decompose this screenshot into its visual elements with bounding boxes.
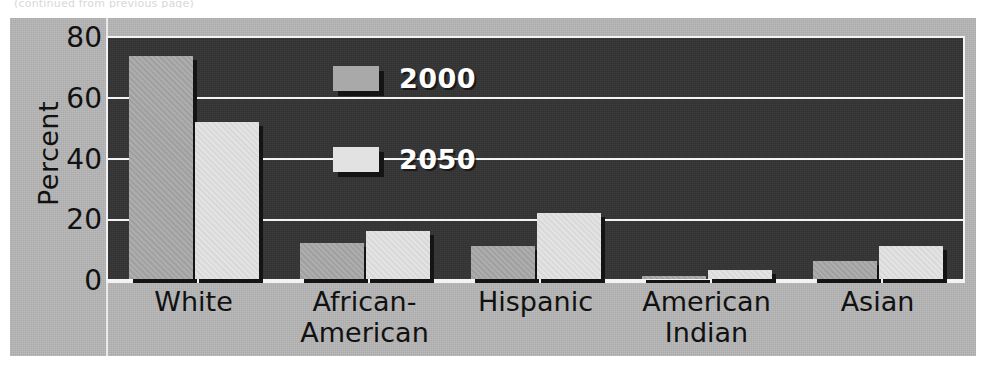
y-axis-tick-labels: 80 60 40 20 0	[40, 18, 102, 356]
chart-panel: Percent 80 60 40 20 0 2000	[10, 18, 976, 356]
legend-item-2050: 2050	[333, 137, 476, 181]
x-label-american-indian: AmericanIndian	[621, 286, 792, 348]
x-label-asian: Asian	[792, 286, 963, 317]
y-tick-20: 20	[40, 206, 102, 234]
y-tick-80: 80	[40, 24, 102, 52]
bar-series-layer	[108, 38, 963, 281]
bar-group	[792, 38, 963, 281]
x-label-african-american: African-American	[279, 286, 450, 348]
legend-swatch-2050	[333, 147, 379, 172]
figure-root: (continued from previous page) Percent 8…	[0, 0, 985, 372]
bar-2000-2	[471, 246, 535, 279]
y-tick-0: 0	[40, 267, 102, 295]
bar-2000-0	[129, 56, 193, 279]
x-label-hispanic: Hispanic	[450, 286, 621, 317]
bar-2000-4	[813, 261, 877, 279]
bar-2000-1	[300, 243, 364, 279]
cut-off-caption: (continued from previous page)	[14, 0, 534, 8]
x-label-white: White	[108, 286, 279, 317]
bar-2050-3	[708, 270, 772, 279]
y-tick-60: 60	[40, 85, 102, 113]
bar-2050-1	[366, 231, 430, 279]
bar-group	[108, 38, 279, 281]
y-tick-40: 40	[40, 146, 102, 174]
chart-legend: 2000 2050	[333, 56, 476, 181]
plot-area: 2000 2050	[108, 38, 963, 281]
bar-2050-4	[879, 246, 943, 279]
legend-item-2000: 2000	[333, 56, 476, 100]
legend-label-2000: 2000	[399, 63, 476, 94]
legend-label-2050: 2050	[399, 144, 476, 175]
bar-2000-3	[642, 276, 706, 279]
bar-2050-2	[537, 213, 601, 279]
legend-swatch-2000	[333, 66, 379, 91]
x-axis-tick-labels: WhiteAfrican-AmericanHispanicAmericanInd…	[108, 286, 963, 352]
bar-group	[621, 38, 792, 281]
bar-2050-0	[195, 122, 259, 279]
